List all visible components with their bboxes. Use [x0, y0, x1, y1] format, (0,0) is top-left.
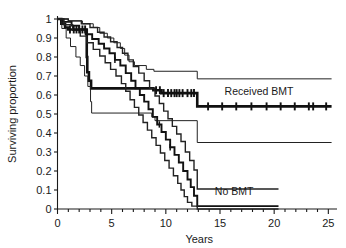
y-tick-label: 0.9: [36, 32, 51, 44]
x-tick-label: 5: [109, 217, 115, 229]
y-tick-label: 1: [45, 13, 51, 25]
x-tick-label: 15: [214, 217, 226, 229]
y-tick-labels: 00.10.20.30.40.50.60.70.80.91: [36, 13, 51, 215]
y-tick-label: 0.5: [36, 108, 51, 120]
x-tick-label: 10: [160, 217, 172, 229]
y-tick-label: 0: [45, 203, 51, 215]
y-tick-label: 0.4: [36, 127, 51, 139]
kaplan-meier-plot: 0510152025 00.10.20.30.40.50.60.70.80.91…: [0, 0, 346, 248]
received-bmt-label: Received BMT: [225, 85, 294, 97]
x-tick-label: 25: [322, 217, 334, 229]
y-tick-label: 0.3: [36, 146, 51, 158]
y-tick-label: 0.6: [36, 89, 51, 101]
x-tick-label: 20: [268, 217, 280, 229]
y-tick-label: 0.7: [36, 70, 51, 82]
x-tick-label: 0: [54, 217, 60, 229]
y-tick-label: 0.8: [36, 51, 51, 63]
survival-chart-figure: 0510152025 00.10.20.30.40.50.60.70.80.91…: [0, 0, 346, 248]
y-tick-label: 0.1: [36, 184, 51, 196]
y-axis-title: Surviving proportion: [6, 65, 18, 163]
y-tick-label: 0.2: [36, 165, 51, 177]
no-bmt-label: No BMT: [215, 185, 254, 197]
x-axis-title: Years: [185, 233, 213, 245]
